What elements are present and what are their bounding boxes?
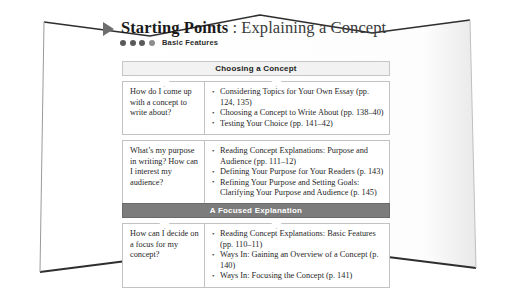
bullet-dot-icon (120, 40, 126, 46)
answer-list: Reading Concept Explanations: Purpose an… (212, 146, 384, 199)
answer-cell: Reading Concept Explanations: Basic Feat… (205, 224, 389, 287)
section-a-focused-explanation: A Focused Explanation How can I decide o… (122, 203, 390, 288)
answer-cell: Considering Topics for Your Own Essay (p… (205, 82, 389, 134)
answer-list: Reading Concept Explanations: Basic Feat… (212, 229, 384, 282)
section-choosing-a-concept: Choosing a Concept How do I come up with… (122, 61, 390, 205)
table-row: How can I decide on a focus for my conce… (122, 223, 390, 288)
title-rest: : Explaining a Concept (232, 18, 386, 38)
list-item: Refining Your Purpose and Setting Goals:… (212, 178, 384, 199)
page-title: Starting Points : Explaining a Concept (103, 18, 386, 38)
list-item: Considering Topics for Your Own Essay (p… (212, 87, 384, 108)
scanned-book-page: Starting Points : Explaining a Concept B… (0, 0, 512, 296)
title-strong: Starting Points (121, 18, 228, 38)
bullet-dot-icon (139, 40, 145, 46)
list-item: Choosing a Concept to Write About (pp. 1… (212, 108, 384, 119)
list-item: Reading Concept Explanations: Purpose an… (212, 146, 384, 167)
section-header-label: A Focused Explanation (210, 206, 302, 215)
section-header-band: A Focused Explanation (122, 203, 390, 218)
answer-list: Considering Topics for Your Own Essay (p… (212, 87, 384, 129)
question-cell: How do I come up with a concept to write… (123, 82, 205, 134)
section-header-label: Choosing a Concept (215, 64, 296, 73)
list-item: Testing Your Choice (pp. 141–42) (212, 119, 384, 130)
answer-cell: Reading Concept Explanations: Purpose an… (205, 141, 389, 204)
section-header-band: Choosing a Concept (122, 61, 390, 76)
question-cell: How can I decide on a focus for my conce… (123, 224, 205, 287)
list-item: Ways In: Focusing the Concept (p. 141) (212, 271, 384, 282)
basic-features-text: Basic Features (162, 38, 218, 47)
bullet-dot-icon (149, 40, 155, 46)
question-cell: What’s my purpose in writing? How can I … (123, 141, 205, 204)
table-row: What’s my purpose in writing? How can I … (122, 140, 390, 205)
triangle-right-icon (103, 22, 114, 36)
basic-features-label: Basic Features (120, 38, 218, 47)
list-item: Defining Your Purpose for Your Readers (… (212, 167, 384, 178)
bullet-dot-icon (130, 40, 136, 46)
list-item: Reading Concept Explanations: Basic Feat… (212, 229, 384, 250)
list-item: Ways In: Gaining an Overview of a Concep… (212, 250, 384, 271)
table-row: How do I come up with a concept to write… (122, 81, 390, 135)
